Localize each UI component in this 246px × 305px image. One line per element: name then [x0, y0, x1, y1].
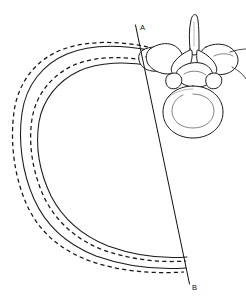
figure-canvas: A B	[0, 0, 246, 305]
pedicle-right	[206, 73, 222, 89]
anatomical-figure: A B	[0, 0, 246, 305]
reference-label-a: A	[140, 23, 145, 32]
reference-label-b: B	[192, 283, 197, 292]
pedicle-left	[166, 73, 182, 89]
